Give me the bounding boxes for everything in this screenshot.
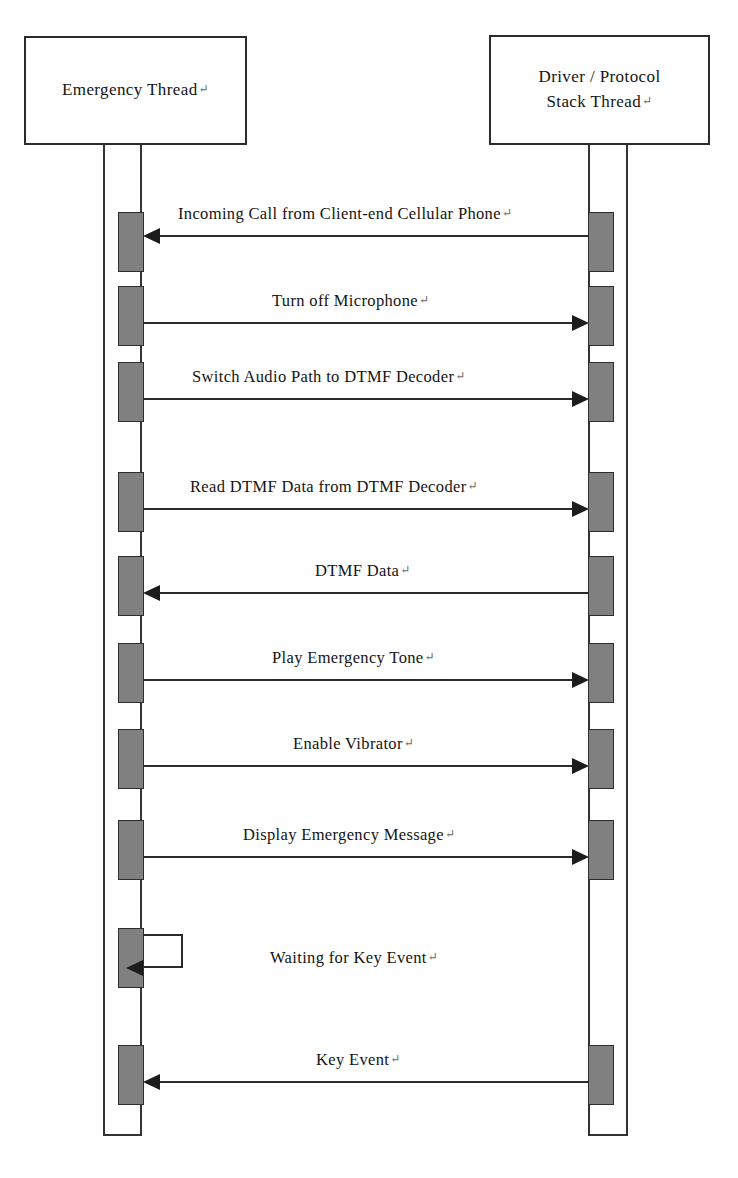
return-mark-icon: ↵ xyxy=(427,950,438,964)
return-mark-icon: ↵ xyxy=(399,563,410,577)
activation-bar-left-1 xyxy=(118,212,144,272)
return-mark-icon: ↵ xyxy=(444,827,455,841)
message-label-4: Read DTMF Data from DTMF Decoder↵ xyxy=(190,479,478,496)
activation-bar-right-5 xyxy=(588,556,614,616)
message-line-7 xyxy=(143,765,577,767)
message-label-8: Display Emergency Message↵ xyxy=(243,827,455,844)
return-mark-icon: ↵ xyxy=(418,293,429,307)
activation-bar-left-9 xyxy=(118,928,144,988)
arrowhead-right-8 xyxy=(572,849,589,865)
activation-bar-left-6 xyxy=(118,643,144,703)
return-mark-icon: ↵ xyxy=(467,479,478,493)
message-line-2 xyxy=(143,322,577,324)
message-line-6 xyxy=(143,679,577,681)
activation-bar-right-8 xyxy=(588,820,614,880)
message-label-9: Waiting for Key Event↵ xyxy=(270,950,438,967)
message-label-2: Turn off Microphone↵ xyxy=(272,293,429,310)
message-line-8 xyxy=(143,856,577,858)
message-label-10: Key Event↵ xyxy=(316,1052,401,1069)
activation-bar-left-8 xyxy=(118,820,144,880)
activation-bar-left-3 xyxy=(118,362,144,422)
participant-label-driver-protocol-stack-thread-line-2: Stack Thread↵ xyxy=(546,90,652,115)
message-line-10 xyxy=(155,1081,589,1083)
return-mark-icon: ↵ xyxy=(403,736,414,750)
return-mark-icon: ↵ xyxy=(198,82,209,96)
activation-bar-left-5 xyxy=(118,556,144,616)
self-message-loop-9 xyxy=(143,934,183,968)
message-line-4 xyxy=(143,508,577,510)
arrowhead-right-7 xyxy=(572,758,589,774)
message-label-3: Switch Audio Path to DTMF Decoder↵ xyxy=(192,369,466,386)
activation-bar-right-4 xyxy=(588,472,614,532)
return-mark-icon: ↵ xyxy=(501,206,512,220)
participant-box-driver-protocol-stack-thread: Driver / ProtocolStack Thread↵ xyxy=(489,35,710,145)
participant-label-emergency-thread-line-1: Emergency Thread↵ xyxy=(62,78,209,103)
message-label-6: Play Emergency Tone↵ xyxy=(272,650,435,667)
participant-label-driver-protocol-stack-thread-line-1: Driver / Protocol xyxy=(539,65,661,90)
activation-bar-left-10 xyxy=(118,1045,144,1105)
participant-box-emergency-thread: Emergency Thread↵ xyxy=(24,36,247,145)
message-line-1 xyxy=(155,235,589,237)
return-mark-icon: ↵ xyxy=(424,650,435,664)
arrowhead-right-6 xyxy=(572,672,589,688)
arrowhead-right-4 xyxy=(572,501,589,517)
activation-bar-right-7 xyxy=(588,729,614,789)
sequence-diagram-canvas: Emergency Thread↵Driver / ProtocolStack … xyxy=(0,0,738,1178)
activation-bar-left-4 xyxy=(118,472,144,532)
message-line-3 xyxy=(143,398,577,400)
activation-bar-right-1 xyxy=(588,212,614,272)
activation-bar-right-6 xyxy=(588,643,614,703)
arrowhead-left-9 xyxy=(126,960,143,976)
activation-bar-right-9 xyxy=(588,1045,614,1105)
return-mark-icon: ↵ xyxy=(389,1052,400,1066)
arrowhead-left-5 xyxy=(143,585,160,601)
message-line-5 xyxy=(155,592,589,594)
arrowhead-left-1 xyxy=(143,228,160,244)
arrowhead-right-2 xyxy=(572,315,589,331)
return-mark-icon: ↵ xyxy=(454,369,465,383)
activation-bar-right-2 xyxy=(588,286,614,346)
message-label-5: DTMF Data↵ xyxy=(315,563,411,580)
return-mark-icon: ↵ xyxy=(641,94,652,108)
activation-bar-left-7 xyxy=(118,729,144,789)
arrowhead-left-10 xyxy=(143,1074,160,1090)
arrowhead-right-3 xyxy=(572,391,589,407)
activation-bar-right-3 xyxy=(588,362,614,422)
message-label-7: Enable Vibrator↵ xyxy=(293,736,414,753)
message-label-1: Incoming Call from Client-end Cellular P… xyxy=(178,206,512,223)
activation-bar-left-2 xyxy=(118,286,144,346)
